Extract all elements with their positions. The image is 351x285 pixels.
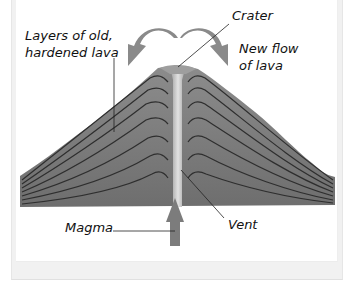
layers-label: Layers of old, hardened lava	[25, 27, 119, 61]
lava-flow-arrow-left	[128, 28, 178, 66]
new-flow-label: New flow of lava	[239, 40, 298, 74]
vent-label: Vent	[228, 216, 257, 233]
magma-label: Magma	[65, 219, 113, 236]
crater-label: Crater	[232, 7, 273, 24]
new-lava-flow-arrows	[128, 28, 228, 66]
layers-label-line2: hardened lava	[25, 44, 119, 61]
lava-flow-arrow-right	[180, 28, 228, 66]
new-flow-label-line2: of lava	[239, 57, 298, 74]
layers-label-line1: Layers of old,	[25, 27, 119, 44]
new-flow-label-line1: New flow	[239, 40, 298, 57]
